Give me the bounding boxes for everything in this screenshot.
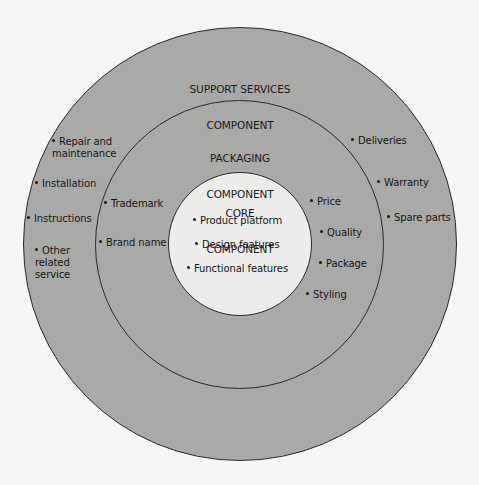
- item-label: Other related service: [35, 245, 70, 280]
- bullet-icon: [320, 230, 323, 233]
- packaging-item-price: Price: [310, 196, 341, 208]
- item-label: Price: [317, 196, 341, 207]
- bullet-icon: [99, 240, 102, 243]
- item-label: Quality: [327, 227, 362, 238]
- item-label: Instructions: [34, 213, 92, 224]
- core-item-product-platform: Product platform: [193, 215, 282, 227]
- item-label: Warranty: [384, 177, 429, 188]
- item-label: Package: [326, 258, 367, 269]
- packaging-item-package: Package: [319, 258, 367, 270]
- item-label: Design features: [202, 239, 280, 250]
- bullet-icon: [35, 181, 38, 184]
- support-item-instructions: Instructions: [27, 213, 92, 225]
- support-item-warranty: Warranty: [377, 177, 429, 189]
- packaging-item-trademark: Trademark: [104, 198, 163, 210]
- bullet-icon: [351, 138, 354, 141]
- item-label: Styling: [313, 289, 347, 300]
- support-item-other: Other related service: [35, 245, 70, 281]
- packaging-title-line1: PACKAGING: [170, 152, 310, 164]
- item-label: Product platform: [200, 215, 282, 226]
- item-label: Functional features: [194, 263, 288, 274]
- core-item-functional-features: Functional features: [187, 263, 288, 275]
- bullet-icon: [195, 242, 198, 245]
- support-item-installation: Installation: [35, 178, 96, 190]
- support-item-spare-parts: Spare parts: [387, 212, 451, 224]
- bullet-icon: [319, 261, 322, 264]
- packaging-item-brand-name: Brand name: [99, 237, 166, 249]
- bullet-icon: [377, 180, 380, 183]
- bullet-icon: [27, 216, 30, 219]
- bullet-icon: [310, 199, 313, 202]
- bullet-icon: [35, 248, 38, 251]
- support-item-repair: Repair and maintenance: [52, 136, 116, 160]
- bullet-icon: [387, 215, 390, 218]
- bullet-icon: [193, 218, 196, 221]
- packaging-item-quality: Quality: [320, 227, 362, 239]
- bullet-icon: [187, 266, 190, 269]
- item-label: Spare parts: [394, 212, 451, 223]
- item-label: Installation: [42, 178, 96, 189]
- bullet-icon: [306, 292, 309, 295]
- bullet-icon: [52, 139, 55, 142]
- support-title-line1: SUPPORT SERVICES: [160, 83, 320, 95]
- bullet-icon: [104, 201, 107, 204]
- support-item-deliveries: Deliveries: [351, 135, 407, 147]
- item-label: Repair and maintenance: [52, 136, 116, 159]
- item-label: Brand name: [106, 237, 166, 248]
- core-item-design-features: Design features: [195, 239, 280, 251]
- packaging-item-styling: Styling: [306, 289, 347, 301]
- item-label: Trademark: [111, 198, 163, 209]
- item-label: Deliveries: [358, 135, 407, 146]
